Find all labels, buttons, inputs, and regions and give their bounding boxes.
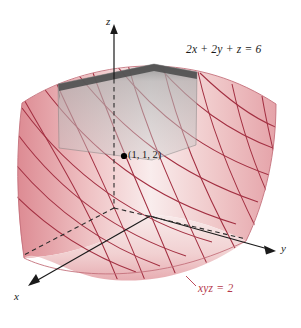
plane-equation-label: 2x + 2y + z = 6 <box>186 44 261 56</box>
point-coordinate-label: (1, 1, 2) <box>128 150 161 161</box>
axis-label-x: x <box>14 291 19 302</box>
surface-label-leader <box>186 276 196 286</box>
z-axis-arrow <box>110 24 118 34</box>
y-axis-arrow <box>264 246 276 255</box>
math-figure-3d-tangent-plane: z y x 2x + 2y + z = 6 xyz = 2 (1, 1, 2) <box>0 0 301 328</box>
surface-equation-label: xyz = 2 <box>198 283 233 295</box>
x-axis-arrow <box>28 274 40 286</box>
axis-label-z: z <box>106 16 110 27</box>
point-marker <box>121 153 127 159</box>
axis-label-y: y <box>281 243 286 254</box>
